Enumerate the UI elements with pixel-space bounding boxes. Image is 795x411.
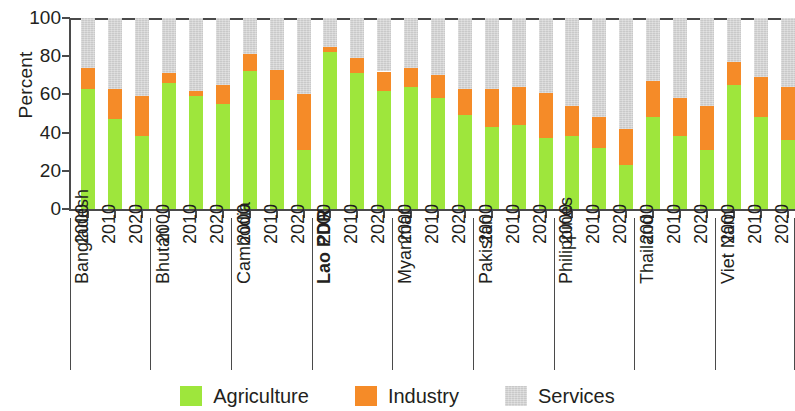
bar-segment-industry: [81, 68, 95, 89]
bar-segment-services: [404, 18, 418, 68]
y-tick-label: 40: [1, 123, 61, 142]
y-tick-label: 20: [1, 161, 61, 180]
bar: [189, 18, 203, 209]
bar-segment-industry: [270, 70, 284, 101]
bar-segment-industry: [646, 81, 660, 117]
bar-segment-services: [485, 18, 499, 89]
bar: [539, 18, 553, 209]
country-group-separator: [634, 218, 635, 370]
bar-segment-services: [323, 18, 337, 47]
plot-area: 020406080100: [69, 18, 793, 209]
legend-item-agriculture[interactable]: Agriculture: [180, 386, 309, 406]
bar-segment-services: [646, 18, 660, 81]
bar-segment-services: [216, 18, 230, 85]
country-group-separator: [231, 218, 232, 370]
x-axis-country-label: Cambodia: [235, 154, 253, 284]
bar-segment-industry: [297, 94, 311, 149]
bar-segment-industry: [243, 54, 257, 71]
bar-segment-services: [781, 18, 795, 87]
bar: [592, 18, 606, 209]
bar: [754, 18, 768, 209]
bar: [270, 18, 284, 209]
bar: [377, 18, 391, 209]
y-tick-label: 80: [1, 46, 61, 65]
bar: [673, 18, 687, 209]
chart-legend: AgricultureIndustryServices: [0, 381, 795, 411]
bar-segment-services: [135, 18, 149, 96]
x-axis-country-labels: BangladeshBhutanCambodiaLao PDRMyanmarPa…: [69, 218, 795, 376]
legend-label: Agriculture: [213, 386, 309, 406]
bar-segment-industry: [162, 73, 176, 83]
country-group-separator: [392, 218, 393, 370]
bar-segment-services: [673, 18, 687, 98]
bar-segment-services: [700, 18, 714, 106]
bar: [297, 18, 311, 209]
bar-segment-industry: [539, 93, 553, 139]
bar: [350, 18, 364, 209]
y-tick-label: 60: [1, 84, 61, 103]
bar: [458, 18, 472, 209]
country-group-separator: [150, 218, 151, 370]
y-tick-label: 0: [1, 199, 61, 218]
x-axis-country-label: Myanmar: [396, 154, 414, 284]
stacked-bar-chart: Percent 020406080100 2000201020202000201…: [0, 0, 795, 411]
legend-item-services[interactable]: Services: [505, 386, 615, 406]
bar-segment-services: [458, 18, 472, 89]
bar: [135, 18, 149, 209]
bar-segment-industry: [350, 58, 364, 73]
bar-segment-services: [377, 18, 391, 71]
legend-item-industry[interactable]: Industry: [355, 386, 459, 406]
bar-segment-industry: [404, 68, 418, 87]
bar-segment-industry: [108, 89, 122, 120]
country-group-separator: [70, 218, 71, 370]
bar-segment-services: [81, 18, 95, 68]
bar-segment-services: [108, 18, 122, 89]
bar-segment-services: [350, 18, 364, 58]
country-group-separator: [312, 218, 313, 370]
country-group-separator: [473, 218, 474, 370]
bar-segment-services: [270, 18, 284, 70]
x-axis-country-label: Bangladesh: [73, 154, 91, 284]
bar-segment-industry: [323, 47, 337, 53]
x-axis-country-label: Viet Nam: [719, 154, 737, 284]
bar-segment-industry: [619, 129, 633, 165]
y-tick-label: 100: [1, 8, 61, 27]
bar-segment-industry: [592, 117, 606, 148]
legend-label: Services: [538, 386, 615, 406]
bar-segment-industry: [700, 106, 714, 150]
bar-segment-industry: [216, 85, 230, 104]
bar-segment-industry: [754, 77, 768, 117]
legend-swatch-agriculture-icon: [180, 386, 202, 406]
country-group-separator: [554, 218, 555, 370]
bar-segment-industry: [781, 87, 795, 140]
x-axis-country-label: Pakistan: [477, 154, 495, 284]
bar-segment-services: [512, 18, 526, 87]
bar: [619, 18, 633, 209]
bar-segment-industry: [135, 96, 149, 136]
bar-segment-services: [619, 18, 633, 129]
bar-segment-services: [162, 18, 176, 73]
x-axis-country-label: Bhutan: [154, 154, 172, 284]
x-axis-country-label: Philippines: [557, 154, 575, 284]
bar-segment-industry: [727, 62, 741, 85]
legend-swatch-services-icon: [505, 386, 527, 406]
country-group-separator: [715, 218, 716, 370]
x-axis-country-label: Thailand: [638, 154, 656, 284]
bar-segment-industry: [512, 87, 526, 125]
x-axis-country-label: Lao PDR: [315, 154, 333, 284]
bar-segment-services: [431, 18, 445, 75]
bar-segment-industry: [485, 89, 499, 127]
bar-segment-services: [754, 18, 768, 77]
bar-segment-services: [592, 18, 606, 117]
bar-segment-industry: [189, 91, 203, 97]
bar-segment-industry: [377, 72, 391, 91]
bar: [512, 18, 526, 209]
bars-layer: [69, 18, 795, 209]
bar: [700, 18, 714, 209]
legend-swatch-industry-icon: [355, 386, 377, 406]
legend-label: Industry: [388, 386, 459, 406]
bar-segment-services: [565, 18, 579, 106]
bar-segment-services: [539, 18, 553, 92]
bar: [431, 18, 445, 209]
bar-segment-industry: [673, 98, 687, 136]
